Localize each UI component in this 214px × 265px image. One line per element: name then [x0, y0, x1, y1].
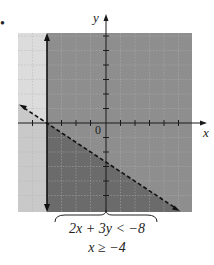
origin-label: 0	[95, 123, 101, 137]
bullet-marker: •	[0, 16, 5, 31]
y-axis-arrow-icon	[104, 14, 109, 21]
x-axis-label: x	[202, 125, 209, 140]
inequality-chart: •	[0, 0, 214, 265]
inequality-label-1: 2x + 3y < −8	[69, 221, 145, 236]
y-axis-label: y	[91, 10, 99, 25]
inequality-label-2: x ≥ −4	[87, 240, 125, 255]
